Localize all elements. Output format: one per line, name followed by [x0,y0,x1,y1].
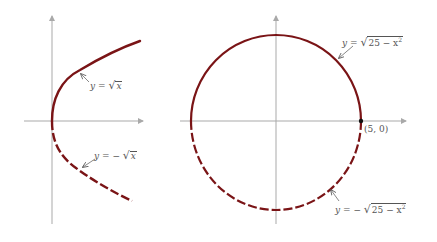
figure: y = √x y = − √x y = √25 − x2 y = − √25 −… [0,0,437,242]
radical-icon: √ [123,149,130,162]
label-exponent: 2 [398,36,402,43]
label-lhs: y [342,38,347,48]
label-radicand: x [116,81,121,91]
lower-semicircle-label: y = − √25 − x2 [335,203,406,216]
radical-icon: √ [108,79,115,92]
label-eq: = [343,205,351,215]
neg-sqrt-x-label: y = − √x [94,150,137,162]
label-eq: = [98,81,106,91]
point-label: (5, 0) [364,125,388,134]
label-radicand: 25 − x [368,38,398,48]
label-lhs: y [90,81,95,91]
sqrt-x-label: y = √x [90,80,122,92]
radical-icon: √ [364,203,371,216]
label-sign: − [112,151,120,161]
label-eq: = [350,38,358,48]
point-5-0 [359,119,363,123]
label-radicand: 25 − x [372,205,402,215]
label-radicand: x [131,151,136,161]
sqrt-x-pointer [81,74,89,82]
label-lhs: y [94,151,99,161]
label-exponent: 2 [402,203,406,210]
label-eq: = [102,151,110,161]
label-lhs: y [335,205,340,215]
lower-semicircle-pointer [331,190,339,201]
upper-semicircle-label: y = √25 − x2 [342,36,403,49]
label-sign: − [353,205,361,215]
radical-icon: √ [360,36,367,49]
